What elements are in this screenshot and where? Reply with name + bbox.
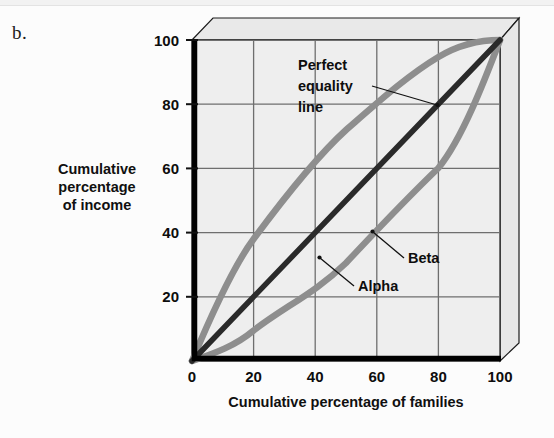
xtick-label-40: 40 (307, 368, 324, 385)
annotation-perfect-equality-line-3: line (298, 99, 323, 115)
xtick-label-20: 20 (245, 368, 262, 385)
annotation-perfect-equality-line-1: Perfect (298, 57, 347, 73)
annotation-perfect-equality-endpoint (435, 103, 439, 107)
figure-container: b. Cumulative percentage of income Cumul… (0, 0, 554, 438)
annotation-beta-endpoint (370, 229, 374, 233)
ytick-label-60: 60 (162, 160, 179, 177)
xtick-label-60: 60 (368, 368, 385, 385)
x-tick-labels: 0 20 40 60 80 100 (188, 368, 513, 385)
xtick-label-80: 80 (430, 368, 447, 385)
annotation-alpha-label: Alpha (358, 278, 399, 294)
y-tick-labels: 100 80 60 40 20 (154, 32, 179, 305)
ytick-label-100: 100 (154, 32, 179, 49)
annotation-beta-label: Beta (408, 250, 440, 266)
box-right-face (500, 18, 519, 361)
annotation-alpha-endpoint (317, 255, 321, 259)
box-top-face (192, 18, 519, 40)
ytick-label-20: 20 (162, 288, 179, 305)
xtick-label-100: 100 (487, 368, 512, 385)
lorenz-curve-chart: 100 80 60 40 20 0 20 40 60 80 100 Perfec… (0, 0, 554, 438)
ytick-label-80: 80 (162, 96, 179, 113)
annotation-perfect-equality-line-2: equality (298, 78, 353, 94)
xtick-label-0: 0 (188, 368, 196, 385)
ytick-label-40: 40 (162, 224, 179, 241)
